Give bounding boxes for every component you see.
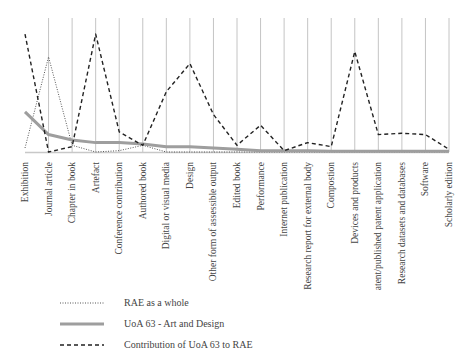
dotted-line-swatch-icon [60,298,104,308]
x-axis-labels: ExhibitionJournal articleChapter in book… [20,161,454,290]
x-axis-label: Artefact [91,162,101,193]
legend: RAE as a whole UoA 63 - Art and Design C… [60,292,253,355]
x-axis-label: Performance [256,162,266,211]
x-axis-label: Chapter in book [67,162,77,223]
legend-item-uoa63: UoA 63 - Art and Design [60,313,253,334]
x-axis-label: Compostion [326,162,336,209]
legend-item-contribution: Contribution of UoA 63 to RAE [60,334,253,355]
x-axis-label: Other form of assessible output [208,162,218,282]
legend-label: RAE as a whole [124,297,189,308]
x-axis-label: Software [420,162,430,196]
line-chart: ExhibitionJournal articleChapter in book… [0,0,467,290]
x-axis-label: Exhibition [20,162,30,202]
x-axis-label: Scholarly edition [444,162,454,227]
x-axis-label: Patent/published patent application [373,162,383,290]
x-axis-label: Design [185,162,195,189]
x-axis-label: Internet publication [279,162,289,237]
x-axis-label: Research report for external body [303,162,313,290]
x-axis-label: Devices and products [350,162,360,244]
legend-label: Contribution of UoA 63 to RAE [124,339,253,350]
dashed-line-swatch-icon [60,340,104,350]
x-axis-label: Research datasets and databases [397,162,407,284]
x-axis-label: Digital or visual media [161,161,171,249]
legend-label: UoA 63 - Art and Design [124,318,224,329]
legend-item-rae-whole: RAE as a whole [60,292,253,313]
x-axis-label: Edited book [232,162,242,208]
x-axis-label: Authored book [138,162,148,220]
solid-line-swatch-icon [60,319,104,329]
x-axis-label: Journal article [44,162,54,216]
x-axis-label: Conference contribution [114,162,124,255]
